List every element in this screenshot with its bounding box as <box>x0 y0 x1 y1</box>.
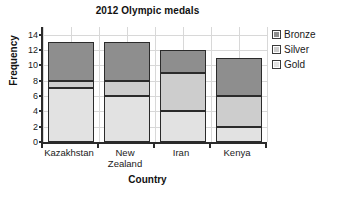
bar-segment-bronze <box>48 42 94 80</box>
bar-segment-silver <box>104 81 150 96</box>
legend-label: Bronze <box>284 29 316 40</box>
x-axis-category-labels: KazakhstanNewZealandIranKenya <box>41 147 265 173</box>
legend-swatch-icon <box>272 45 281 54</box>
gridline-vertical <box>99 27 100 142</box>
gridline-vertical <box>211 27 212 142</box>
y-tick-label: 12 <box>18 45 38 55</box>
bar-segment-bronze <box>216 58 262 96</box>
legend-item[interactable]: Silver <box>272 42 344 57</box>
bar-segment-bronze <box>104 42 150 80</box>
bar-segment-gold <box>48 88 94 142</box>
gridline-vertical <box>43 27 44 142</box>
x-category-label: Kenya <box>203 147 271 158</box>
legend-swatch-icon <box>272 60 281 69</box>
y-tick-label: 2 <box>18 122 38 132</box>
bar-segment-silver <box>48 81 94 89</box>
bar-stack <box>216 27 262 142</box>
y-axis-tick-labels: 02468101214 <box>14 27 38 142</box>
y-tick-label: 4 <box>18 106 38 116</box>
gridline-vertical <box>267 27 268 142</box>
x-category-label-line: Kenya <box>203 147 271 158</box>
legend-item[interactable]: Gold <box>272 57 344 72</box>
bar-stack <box>160 27 206 142</box>
bar-segment-gold <box>104 96 150 142</box>
stacked-bar-chart: 2012 Olympic medals Frequency 0246810121… <box>0 0 347 198</box>
y-tick-label: 10 <box>18 60 38 70</box>
y-tick-label: 8 <box>18 76 38 86</box>
y-tick-label: 14 <box>18 30 38 40</box>
x-axis-title: Country <box>30 174 265 185</box>
bar-segment-silver <box>160 73 206 111</box>
plot-area <box>41 27 267 144</box>
gridline-vertical <box>155 27 156 142</box>
legend: BronzeSilverGold <box>272 27 344 72</box>
bar-segment-gold <box>160 111 206 142</box>
legend-swatch-icon <box>272 30 281 39</box>
legend-label: Silver <box>284 44 309 55</box>
bar-segment-bronze <box>160 50 206 73</box>
y-tick-label: 0 <box>18 137 38 147</box>
bar-segment-silver <box>216 96 262 127</box>
bar-segment-gold <box>216 127 262 142</box>
bar-stack <box>48 27 94 142</box>
legend-label: Gold <box>284 59 305 70</box>
x-category-label-line: Zealand <box>91 158 159 169</box>
chart-title: 2012 Olympic medals <box>30 5 265 16</box>
bar-stack <box>104 27 150 142</box>
legend-item[interactable]: Bronze <box>272 27 344 42</box>
y-tick-label: 6 <box>18 91 38 101</box>
